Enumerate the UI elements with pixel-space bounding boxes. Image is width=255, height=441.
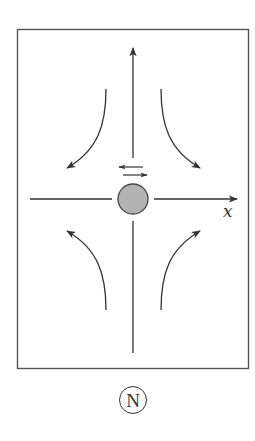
flow-arrow-lower-right	[161, 231, 200, 310]
diagram-canvas	[0, 0, 255, 441]
flow-arrow-lower-left	[67, 231, 106, 310]
flow-arrow-upper-left	[67, 89, 106, 168]
particle	[118, 184, 148, 214]
panel-label-circled: N	[119, 386, 147, 414]
x-axis-label: x	[223, 203, 233, 220]
flow-arrow-upper-right	[161, 89, 200, 168]
flow-diagram: x N	[0, 0, 255, 441]
panel-label-text: N	[126, 391, 140, 410]
